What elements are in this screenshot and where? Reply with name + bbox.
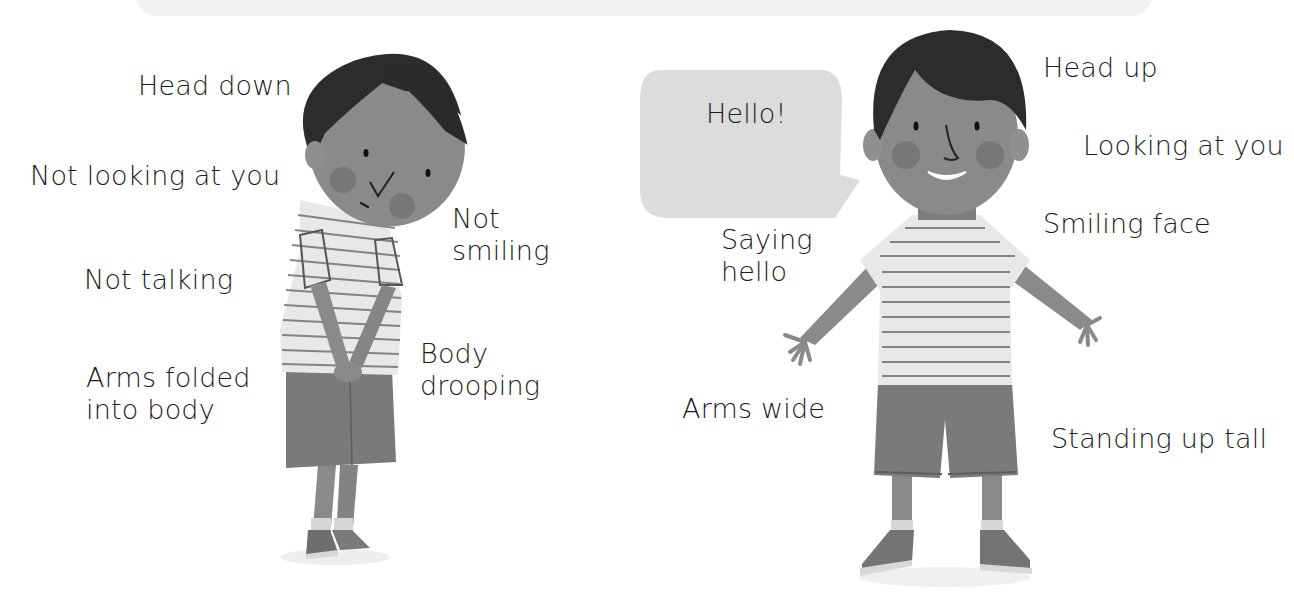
label-not-smiling-line-1: Not <box>452 203 550 235</box>
label-arms-wide: Arms wide <box>682 393 825 425</box>
label-saying-hello-line-1: Saying <box>721 224 813 256</box>
label-not-smiling-line-2: smiling <box>452 235 550 267</box>
label-body-drooping-line-1: Body <box>420 338 540 370</box>
shy-boy-figure <box>280 34 488 565</box>
label-head-down: Head down <box>138 70 292 102</box>
label-body-drooping: Body drooping <box>420 338 540 402</box>
label-smiling-face: Smiling face <box>1043 208 1211 240</box>
label-saying-hello-line-2: hello <box>721 256 813 288</box>
label-body-drooping-line-2: drooping <box>420 370 540 402</box>
speech-bubble-text: Hello! <box>706 98 786 130</box>
label-not-smiling: Not smiling <box>452 203 550 267</box>
label-standing-tall: Standing up tall <box>1051 423 1267 455</box>
label-arms-folded-line-1: Arms folded <box>86 362 251 394</box>
label-saying-hello: Saying hello <box>721 224 813 288</box>
label-not-talking: Not talking <box>84 264 233 296</box>
label-arms-folded: Arms folded into body <box>86 362 251 426</box>
label-head-up: Head up <box>1043 52 1158 84</box>
label-looking-at-you: Looking at you <box>1083 130 1284 162</box>
label-not-looking: Not looking at you <box>30 160 280 192</box>
label-arms-folded-line-2: into body <box>86 394 251 426</box>
